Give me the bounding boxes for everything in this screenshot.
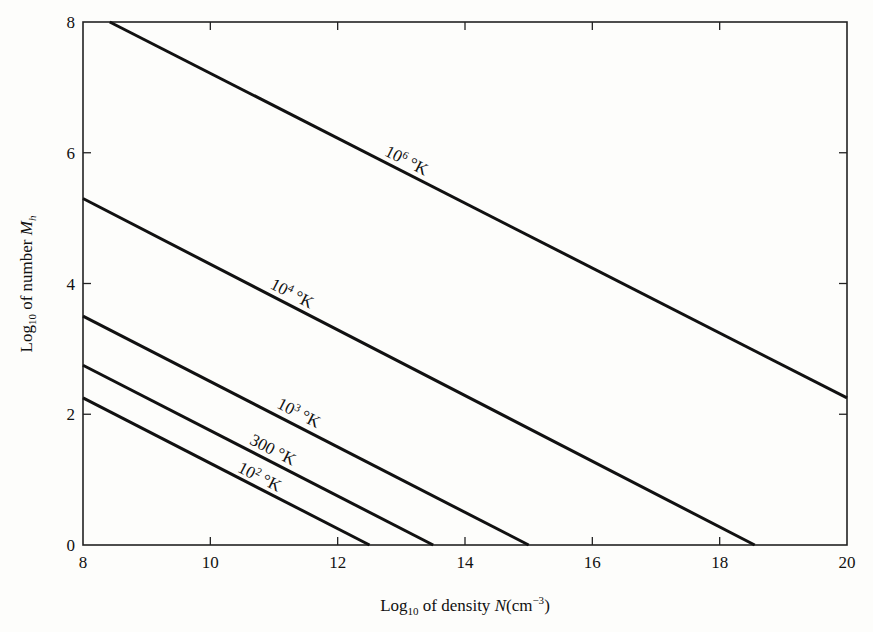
x-tick-label: 16 [584, 553, 601, 572]
y-tick-label: 2 [67, 405, 76, 424]
axis-ticks: 810121416182002468 [67, 13, 856, 572]
x-tick-label: 12 [329, 553, 346, 572]
plot-frame [83, 22, 847, 545]
x-axis-title: Log10 of density N(cm−3) [380, 594, 550, 617]
x-tick-label: 10 [202, 553, 219, 572]
x-tick-label: 8 [79, 553, 88, 572]
x-tick-label: 20 [839, 553, 856, 572]
chart: 810121416182002468 106 °K104 °K103 °K300… [0, 0, 873, 632]
x-tick-label: 18 [711, 553, 728, 572]
y-tick-label: 0 [67, 536, 76, 555]
plot-border [83, 22, 847, 545]
y-tick-label: 4 [67, 275, 76, 294]
curve-line [83, 365, 433, 545]
y-tick-label: 6 [67, 144, 76, 163]
data-lines [83, 22, 847, 545]
y-tick-label: 8 [67, 13, 76, 32]
x-tick-label: 14 [457, 553, 475, 572]
curve-line [83, 199, 755, 545]
y-axis-title: Log10 of number Mh [17, 215, 38, 352]
curve-labels: 106 °K104 °K103 °K300 °K102 °K [235, 141, 432, 496]
curve-line [83, 398, 370, 545]
curve-line [110, 22, 847, 398]
